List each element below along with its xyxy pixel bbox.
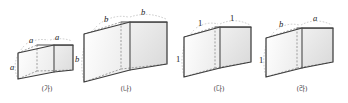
front-left-vertical-edge-label: 1 bbox=[259, 55, 263, 65]
figure-c-caption: (다) bbox=[173, 86, 265, 93]
figure-d-caption: (라) bbox=[256, 86, 348, 93]
figure-d: b a 1 (라) bbox=[256, 0, 348, 103]
top-back-edge-label: b bbox=[141, 7, 145, 17]
right-face bbox=[130, 22, 167, 70]
figure-b: b b b (나) bbox=[70, 0, 182, 103]
guide-line-top-back bbox=[130, 14, 166, 19]
right-face bbox=[220, 27, 251, 68]
front-face bbox=[18, 45, 54, 79]
front-left-vertical-edge-label: b bbox=[75, 54, 79, 64]
right-face bbox=[302, 28, 333, 68]
figure-c: 1 1 1 (다) bbox=[173, 0, 265, 103]
top-back-edge-label: 1 bbox=[230, 13, 234, 23]
top-left-edge-label: b bbox=[104, 14, 108, 24]
guide-line-top-back bbox=[220, 21, 250, 25]
top-left-edge-label: 1 bbox=[198, 18, 202, 28]
front-left-vertical-edge-label: a bbox=[10, 62, 14, 72]
front-face bbox=[84, 22, 130, 82]
top-left-edge-label: b bbox=[279, 19, 283, 29]
figure-board: a a a (가) bbox=[0, 0, 348, 103]
top-back-edge-label: a bbox=[313, 13, 317, 23]
front-left-vertical-edge-label: 1 bbox=[176, 54, 180, 64]
top-left-edge-label: a bbox=[29, 35, 33, 45]
top-back-edge-label: a bbox=[55, 32, 59, 42]
figure-b-caption: (나) bbox=[70, 86, 182, 93]
guide-line-top-back bbox=[50, 39, 72, 41]
